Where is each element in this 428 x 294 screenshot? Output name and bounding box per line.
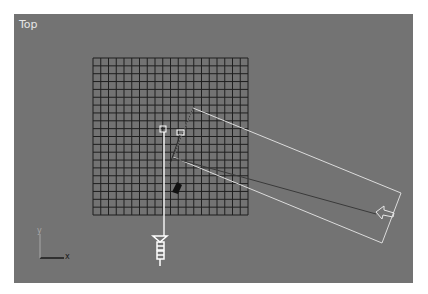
axis-x-label: x [65, 252, 70, 261]
direction-arrow-icon [376, 206, 394, 219]
grid-plane[interactable] [93, 58, 248, 215]
axis-y-label: y [37, 226, 42, 235]
camera-icon[interactable] [153, 236, 167, 266]
axis-tripod-icon: x y [37, 226, 70, 261]
top-viewport[interactable]: x y Top [14, 14, 413, 283]
viewport-label[interactable]: Top [19, 18, 38, 31]
scene-canvas[interactable]: x y [14, 14, 413, 283]
